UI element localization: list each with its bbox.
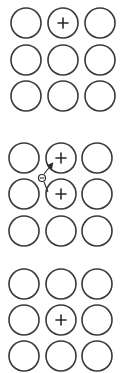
atom-circle [9,305,39,335]
positive-charge-icon [56,189,66,199]
atom-circle [82,341,112,371]
panel-2 [9,143,112,246]
atom-circle [82,179,112,209]
lattice-diagram [0,0,127,373]
positive-charge-icon [56,315,66,325]
atom-circle [9,216,39,246]
atom-circle [48,81,78,111]
positive-charge-icon [56,153,66,163]
atom-circle [11,45,41,75]
panel-3 [9,269,112,371]
atom-circle [82,143,112,173]
atom-circle [82,216,112,246]
atom-circle [85,81,115,111]
electron-icon [39,175,46,182]
atom-circle [46,216,76,246]
atom-circle [82,269,112,299]
atom-circle [85,45,115,75]
atom-circle [46,341,76,371]
atom-circle [82,305,112,335]
atom-circle [9,269,39,299]
atom-circle [9,143,39,173]
panel-1 [11,8,115,111]
atom-circle [9,341,39,371]
positive-charge-icon [58,18,68,28]
atom-circle [11,8,41,38]
atom-circle [85,8,115,38]
atom-circle [11,81,41,111]
atom-circle [9,179,39,209]
atom-circle [46,269,76,299]
atom-circle [48,45,78,75]
